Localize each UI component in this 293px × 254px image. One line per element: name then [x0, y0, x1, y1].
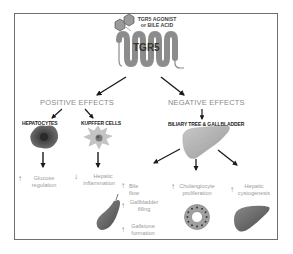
effect-line2: inflammation: [76, 180, 122, 187]
up-arrow-icon: ↑: [171, 182, 175, 191]
biliary-tree-label: BILIARY TREE & GALLBLADDER: [168, 121, 244, 127]
up-arrow-icon: ↑: [18, 174, 22, 183]
effect-line1: Bile flow: [129, 183, 139, 196]
effect-line2: proliferation: [176, 190, 218, 197]
effect-line2: filling: [127, 206, 161, 213]
effect-line1: Gallbladder: [127, 199, 161, 206]
arrow-to-negative: [161, 77, 184, 95]
ligand-label: TGR5 AGONIST or BILE ACID: [132, 16, 182, 28]
effect-line2: cystogenesis: [235, 190, 273, 197]
up-arrow-icon: ↑: [121, 181, 125, 190]
up-arrow-icon: ↑: [121, 225, 125, 234]
arrow-to-positive: [97, 77, 126, 95]
effect-line1: Gallstone: [127, 223, 159, 230]
hepatic-cyst-liver-icon: [234, 206, 270, 232]
kupffer-cells-label: KUPFFER CELLS: [81, 120, 121, 126]
effect-line2: regulation: [24, 182, 64, 189]
diagram-graphics: [0, 0, 293, 254]
hepatocytes-label: HEPATOCYTES: [22, 120, 58, 126]
effect-line1: Cholangiocyte: [176, 183, 218, 190]
receptor-label: TGR5: [133, 42, 160, 53]
negative-effects-title: NEGATIVE EFFECTS: [168, 98, 245, 107]
kupffer-cell-icon: [84, 126, 112, 149]
positive-effects-title: POSITIVE EFFECTS: [40, 98, 114, 107]
ligand-label-line2: or BILE ACID: [132, 22, 182, 28]
up-arrow-icon: ↑: [230, 185, 234, 194]
up-arrow-icon: ↑: [121, 201, 125, 210]
cholangiocyte-ring-icon: [185, 205, 210, 230]
gallbladder-icon: [97, 200, 120, 230]
effect-line2: formation: [127, 230, 159, 237]
